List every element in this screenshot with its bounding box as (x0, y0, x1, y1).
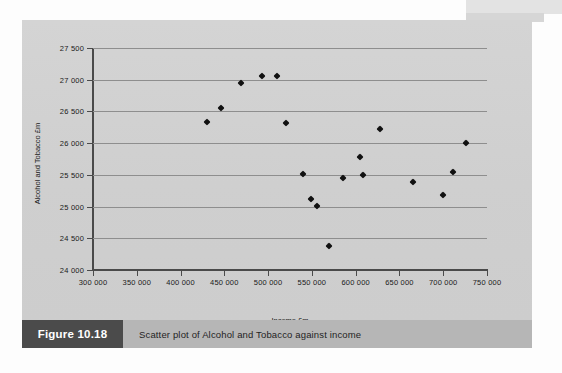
scatter-point (326, 242, 333, 249)
x-axis-tick (312, 270, 313, 276)
scatter-point (410, 178, 417, 185)
scatter-point (377, 125, 384, 132)
x-axis-tick-label: 300 000 (79, 278, 108, 287)
scatter-point (258, 72, 265, 79)
scatter-point (339, 174, 346, 181)
y-axis-tick-label: 24 000 (60, 266, 84, 275)
y-axis-tick (87, 48, 93, 49)
y-axis-line (92, 48, 94, 270)
x-axis-line (92, 269, 488, 271)
x-axis-tick-label: 350 000 (123, 278, 152, 287)
x-axis-tick-label: 750 000 (473, 278, 502, 287)
x-axis-tick (268, 270, 269, 276)
scatter-point (203, 118, 210, 125)
y-axis-tick (87, 143, 93, 144)
scatter-point (273, 72, 280, 79)
x-axis-tick (443, 270, 444, 276)
x-axis-tick-label: 700 000 (429, 278, 458, 287)
figure-caption-bar: Figure 10.18 Scatter plot of Alcohol and… (22, 320, 532, 348)
x-axis-tick (356, 270, 357, 276)
y-axis-tick-label: 27 000 (60, 75, 84, 84)
y-axis-tick-label: 25 000 (60, 202, 84, 211)
y-axis-tick-label: 25 500 (60, 170, 84, 179)
x-axis-tick (399, 270, 400, 276)
x-axis-tick (487, 270, 488, 276)
scatter-point (359, 171, 366, 178)
x-axis-tick-label: 450 000 (210, 278, 239, 287)
figure-number-tag: Figure 10.18 (22, 320, 123, 348)
scatter-point (307, 195, 314, 202)
gridline-horizontal (93, 238, 487, 239)
scatter-point (356, 154, 363, 161)
y-axis-tick (87, 111, 93, 112)
figure-page: Alcohol and Tobacco £m Income £m 24 0002… (0, 0, 562, 373)
y-axis-title: Alcohol and Tobacco £m (33, 79, 42, 249)
x-axis-tick-label: 600 000 (341, 278, 370, 287)
y-axis-tick (87, 175, 93, 176)
scatter-point (440, 191, 447, 198)
x-axis-tick (93, 270, 94, 276)
y-axis-tick-label: 27 500 (60, 44, 84, 53)
gridline-horizontal (93, 207, 487, 208)
x-axis-tick-label: 400 000 (166, 278, 195, 287)
y-axis-tick (87, 207, 93, 208)
gridline-horizontal (93, 111, 487, 112)
x-axis-tick (224, 270, 225, 276)
x-axis-tick-label: 500 000 (254, 278, 283, 287)
gridline-horizontal (93, 143, 487, 144)
scatter-point (462, 140, 469, 147)
y-axis-tick (87, 80, 93, 81)
y-axis-tick-label: 26 000 (60, 139, 84, 148)
x-axis-tick (181, 270, 182, 276)
gridline-horizontal (93, 175, 487, 176)
figure-caption-text: Scatter plot of Alcohol and Tobacco agai… (139, 320, 361, 348)
scatter-point (300, 171, 307, 178)
scatter-plot-area: 24 00024 50025 00025 50026 00026 50027 0… (93, 48, 487, 270)
scatter-point (283, 119, 290, 126)
gridline-horizontal (93, 48, 487, 49)
y-axis-tick-label: 24 500 (60, 234, 84, 243)
chart-panel: Alcohol and Tobacco £m Income £m 24 0002… (22, 20, 532, 320)
y-axis-tick (87, 238, 93, 239)
gridline-horizontal (93, 80, 487, 81)
x-axis-tick-label: 550 000 (298, 278, 327, 287)
y-axis-tick-label: 26 500 (60, 107, 84, 116)
x-axis-tick (137, 270, 138, 276)
page-corner-bleed (466, 0, 562, 14)
x-axis-tick-label: 650 000 (385, 278, 414, 287)
scatter-point (314, 202, 321, 209)
scatter-point (217, 104, 224, 111)
